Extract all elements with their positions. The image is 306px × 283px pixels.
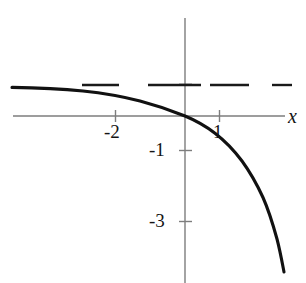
function-curve (12, 87, 284, 272)
x-axis-label: x (288, 106, 297, 126)
y-tick-label-minus1: -1 (149, 140, 165, 159)
x-tick-label-1: 1 (213, 122, 223, 141)
function-graph-figure: -2 1 -1 -3 x (0, 0, 306, 283)
y-tick-label-minus3: -3 (149, 211, 165, 230)
x-tick-label-minus2: -2 (104, 122, 120, 141)
